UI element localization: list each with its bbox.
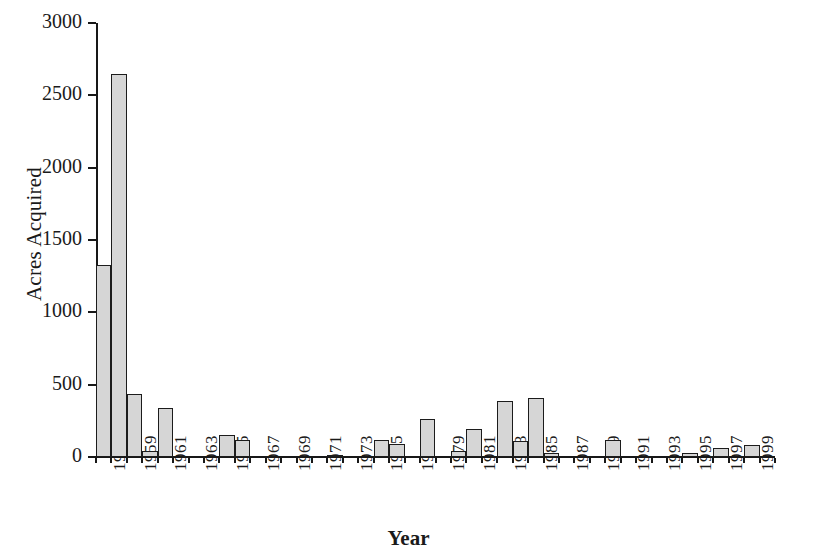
y-axis-tick-label: 1500 — [12, 227, 82, 250]
x-axis-tick-label: 1971 — [326, 435, 346, 471]
y-axis-tick-label: 2500 — [12, 82, 82, 105]
y-axis-tick-label: 0 — [12, 444, 82, 467]
bar — [744, 445, 759, 457]
x-axis-tick-label: 1991 — [634, 435, 654, 471]
bar — [713, 448, 728, 457]
bar — [374, 440, 389, 457]
x-axis-tick — [95, 458, 97, 463]
bar — [327, 455, 342, 457]
y-axis-tick: 2500 — [88, 94, 96, 96]
bar — [96, 265, 111, 457]
bar — [111, 74, 126, 457]
bar — [158, 408, 173, 457]
bar — [544, 453, 559, 457]
bar — [528, 398, 543, 457]
x-axis-tick-label: 1969 — [295, 435, 315, 471]
bar — [219, 435, 234, 457]
bar — [497, 401, 512, 457]
y-axis-tick-label: 1000 — [12, 299, 82, 322]
y-axis-tick: 1500 — [88, 239, 96, 241]
y-axis-tick-label: 3000 — [12, 10, 82, 33]
x-axis-tick-label: 1999 — [758, 435, 778, 471]
y-axis-tick-label: 2000 — [12, 155, 82, 178]
x-axis-tick-label: 1967 — [264, 435, 284, 471]
bar — [682, 453, 697, 457]
bar — [235, 440, 250, 457]
bar — [605, 440, 620, 457]
bar — [420, 419, 435, 457]
x-axis-tick-label: 1961 — [171, 435, 191, 471]
bar-chart: Acres Acquired 050010001500200025003000 … — [0, 0, 817, 559]
y-axis-tick: 2000 — [88, 167, 96, 169]
bar — [142, 451, 157, 457]
bar — [466, 429, 481, 457]
y-axis-tick: 3000 — [88, 22, 96, 24]
y-axis-tick: 1000 — [88, 311, 96, 313]
x-axis-title: Year — [0, 526, 817, 551]
bar — [513, 441, 528, 457]
y-axis-tick-label: 500 — [12, 372, 82, 395]
x-axis-tick-label: 1987 — [573, 435, 593, 471]
bar — [127, 394, 142, 457]
y-axis-tick: 500 — [88, 384, 96, 386]
bar — [451, 451, 466, 457]
plot-area: 050010001500200025003000 195719591961196… — [96, 23, 775, 457]
bar — [389, 444, 404, 457]
